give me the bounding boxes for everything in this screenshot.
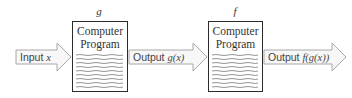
output-fg-arrow-label: Output f(g(x)) [268,51,329,63]
program-box-f-title: Computer Program [209,25,262,50]
input-prefix: Input [20,51,43,63]
program-g-title-line1: Computer [73,25,127,38]
output-fg-math: f(g(x)) [302,52,329,63]
function-label-f: f [225,5,245,17]
output-fg-prefix: Output [268,51,300,63]
program-box-g-title: Computer Program [73,25,127,50]
program-box-f: Computer Program [208,21,263,92]
function-composition-diagram: g f Computer Program Computer Program In… [0,0,352,98]
function-label-g: g [89,5,109,17]
input-math: x [46,52,51,63]
output-g-math: g(x) [167,52,184,63]
input-arrow-label: Input x [20,51,51,63]
output-g-arrow-label: Output g(x) [133,51,184,63]
program-g-title-line2: Program [73,38,127,51]
arrows-layer [0,0,352,98]
program-f-title-line1: Computer [209,25,262,38]
program-box-g: Computer Program [72,21,128,92]
output-g-prefix: Output [133,51,165,63]
program-f-title-line2: Program [209,38,262,51]
